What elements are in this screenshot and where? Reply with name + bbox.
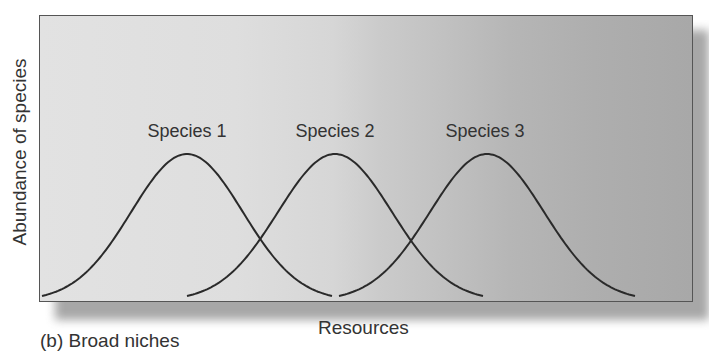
x-axis-label: Resources bbox=[318, 317, 409, 339]
species-2-label: Species 2 bbox=[295, 121, 374, 142]
species-2-curve bbox=[187, 154, 483, 296]
y-axis-label: Abundance of species bbox=[9, 59, 31, 246]
niche-curves bbox=[39, 15, 693, 302]
figure-caption: (b) Broad niches bbox=[40, 330, 179, 352]
species-3-curve bbox=[339, 154, 635, 296]
species-3-label: Species 3 bbox=[445, 121, 524, 142]
species-1-curve bbox=[42, 154, 332, 296]
species-1-label: Species 1 bbox=[147, 121, 226, 142]
